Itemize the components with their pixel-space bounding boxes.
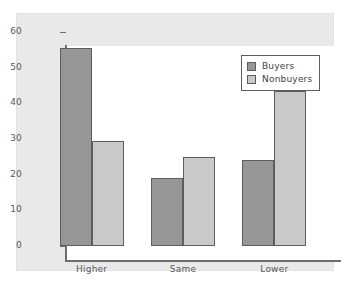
legend-item-buyers[interactable]: Buyers [247,60,312,73]
legend-label-buyers: Buyers [262,62,294,71]
chart-figure: 0102030405060 HigherSameLower Buyers Non… [0,0,350,283]
bar-same-nonbuyers [183,157,215,246]
x-axis-label-higher: Higher [52,264,132,274]
chart-legend: Buyers Nonbuyers [241,55,320,91]
x-axis-line [65,260,341,262]
legend-item-nonbuyers[interactable]: Nonbuyers [247,73,312,86]
x-axis-label-lower: Lower [234,264,314,274]
x-axis-label-same: Same [143,264,223,274]
y-tick-label: 60 [10,27,22,36]
y-tick-label: 50 [10,63,22,72]
legend-label-nonbuyers: Nonbuyers [262,75,312,84]
y-tick-label: 10 [10,205,22,214]
bar-lower-buyers [242,160,274,246]
legend-swatch-nonbuyers [247,75,256,84]
legend-swatch-buyers [247,62,256,71]
y-tick-label: 40 [10,98,22,107]
bar-same-buyers [151,178,183,246]
bar-higher-buyers [60,48,92,246]
y-tick-label: 30 [10,134,22,143]
y-tick-label: 0 [16,241,22,250]
bar-higher-nonbuyers [92,141,124,246]
y-tick-mark [60,32,66,33]
bar-lower-nonbuyers [274,91,306,246]
y-tick-label: 20 [10,170,22,179]
chart-panel: 0102030405060 HigherSameLower Buyers Non… [17,14,333,270]
